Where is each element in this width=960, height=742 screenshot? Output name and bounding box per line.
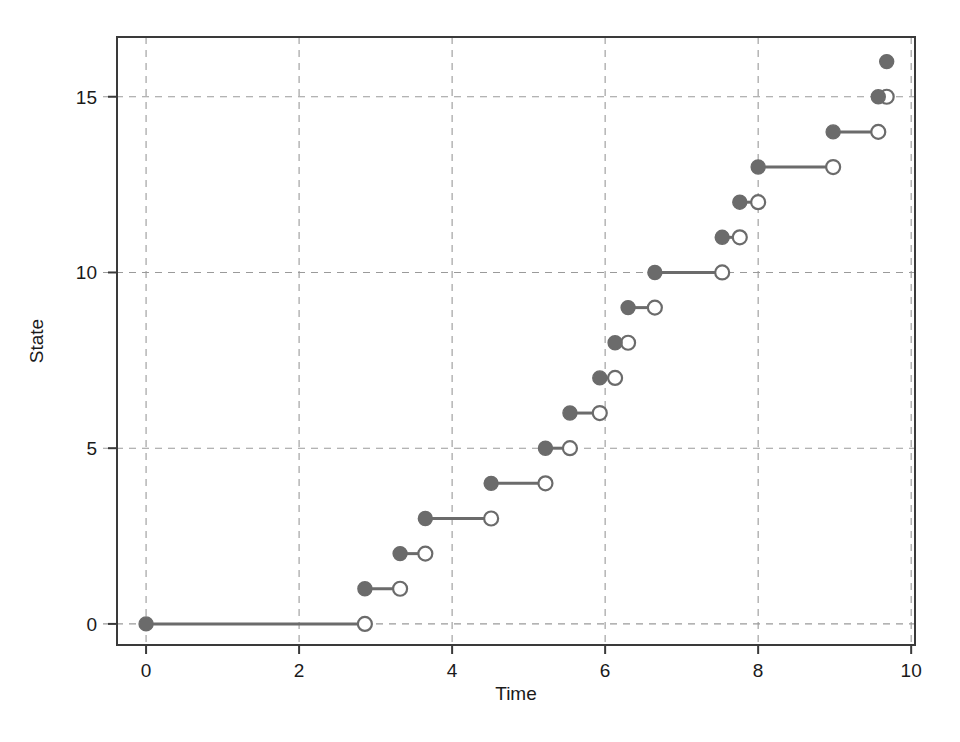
open-circle-marker [826, 160, 840, 174]
step-segment [880, 55, 894, 69]
open-circle-marker [733, 230, 747, 244]
filled-circle-marker [608, 336, 622, 350]
y-axis-title: State [26, 319, 47, 363]
step-segment [826, 125, 885, 139]
filled-circle-marker [593, 371, 607, 385]
filled-circle-marker [751, 160, 765, 174]
filled-circle-marker [648, 265, 662, 279]
axis-ticks [108, 97, 911, 654]
step-segment [418, 511, 498, 525]
step-series [139, 55, 894, 631]
x-axis-title: Time [495, 683, 537, 704]
y-tick-label-1: 5 [86, 438, 97, 459]
filled-circle-marker [563, 406, 577, 420]
step-segment [621, 301, 662, 315]
filled-circle-marker [484, 476, 498, 490]
open-circle-marker [593, 406, 607, 420]
open-circle-marker [538, 476, 552, 490]
x-tick-label-0: 0 [141, 660, 152, 681]
filled-circle-marker [358, 582, 372, 596]
filled-circle-marker [621, 301, 635, 315]
filled-circle-marker [733, 195, 747, 209]
y-tick-label-3: 15 [76, 87, 97, 108]
open-circle-marker [393, 582, 407, 596]
step-segment [563, 406, 607, 420]
y-tick-label-2: 10 [76, 262, 97, 283]
x-tick-label-3: 6 [600, 660, 611, 681]
axis-tick-labels: 0246810051015 [76, 87, 922, 681]
axes-frame [117, 37, 915, 645]
step-segment [648, 265, 729, 279]
step-segment [751, 160, 840, 174]
step-segment [139, 617, 372, 631]
step-plot-figure: 0246810051015 Time State [0, 0, 960, 742]
open-circle-marker [418, 547, 432, 561]
open-circle-marker [871, 125, 885, 139]
filled-circle-marker [871, 90, 885, 104]
filled-circle-marker [715, 230, 729, 244]
step-segment [358, 582, 407, 596]
plot-canvas: 0246810051015 Time State [0, 0, 960, 742]
filled-circle-marker [880, 55, 894, 69]
filled-circle-marker [538, 441, 552, 455]
step-segment [393, 547, 432, 561]
open-circle-marker [358, 617, 372, 631]
x-tick-label-4: 8 [753, 660, 764, 681]
filled-circle-marker [826, 125, 840, 139]
filled-circle-marker [418, 511, 432, 525]
step-segment [733, 195, 765, 209]
step-segment [484, 476, 552, 490]
plot-frame [117, 37, 915, 645]
filled-circle-marker [139, 617, 153, 631]
step-segment [538, 441, 576, 455]
step-segment [715, 230, 747, 244]
open-circle-marker [751, 195, 765, 209]
open-circle-marker [648, 301, 662, 315]
x-tick-label-1: 2 [294, 660, 305, 681]
open-circle-marker [563, 441, 577, 455]
step-segment [593, 371, 622, 385]
grid-lines [103, 37, 915, 645]
open-circle-marker [715, 265, 729, 279]
open-circle-marker [621, 336, 635, 350]
step-segment [608, 336, 635, 350]
filled-circle-marker [393, 547, 407, 561]
x-tick-label-5: 10 [901, 660, 922, 681]
step-segment [871, 90, 893, 104]
open-circle-marker [484, 511, 498, 525]
y-tick-label-0: 0 [86, 614, 97, 635]
x-tick-label-2: 4 [447, 660, 458, 681]
open-circle-marker [608, 371, 622, 385]
